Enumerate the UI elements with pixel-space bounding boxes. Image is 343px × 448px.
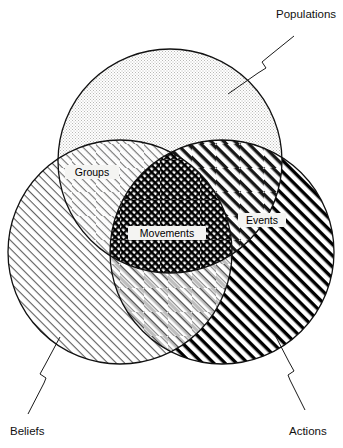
venn-diagram-canvas: Populations Beliefs Actions Groups Event…: [0, 0, 343, 448]
label-actions: Actions: [289, 425, 327, 437]
region-label-groups: Groups: [65, 165, 119, 179]
label-populations: Populations: [276, 8, 336, 20]
events-label-text: Events: [246, 214, 278, 226]
groups-label-text: Groups: [75, 166, 109, 178]
region-label-movements: Movements: [128, 226, 206, 240]
movements-label-text: Movements: [140, 227, 194, 239]
region-label-events: Events: [238, 213, 286, 227]
venn-diagram: Populations Beliefs Actions Groups Event…: [0, 0, 343, 448]
label-beliefs: Beliefs: [10, 425, 45, 437]
